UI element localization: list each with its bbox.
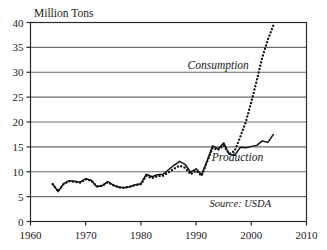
- y-tick-label-20: 20: [13, 116, 25, 128]
- y-tick-label-10: 10: [13, 166, 25, 178]
- source-note: Source: USDA: [209, 198, 271, 209]
- y-axis-title: Million Tons: [34, 7, 94, 19]
- y-tick-label-35: 35: [13, 41, 25, 53]
- line-chart: 0510152025303540 19601970198019902000201…: [0, 0, 327, 250]
- chart-page: 0510152025303540 19601970198019902000201…: [0, 0, 327, 250]
- consumption-label: Consumption: [188, 59, 250, 72]
- y-tick-label-30: 30: [13, 66, 25, 78]
- y-tick-label-15: 15: [13, 141, 25, 153]
- production-label: Production: [211, 151, 264, 163]
- y-tick-label-40: 40: [13, 17, 25, 29]
- x-tick-label-2000: 2000: [240, 229, 263, 241]
- x-tick-label-1970: 1970: [75, 229, 98, 241]
- x-tick-label-1960: 1960: [20, 229, 43, 241]
- y-tick-label-25: 25: [13, 91, 25, 103]
- x-tick-label-1980: 1980: [130, 229, 153, 241]
- x-tick-label-1990: 1990: [185, 229, 208, 241]
- x-tick-label-2010: 2010: [296, 229, 319, 241]
- y-tick-label-5: 5: [18, 191, 24, 203]
- y-tick-label-0: 0: [18, 216, 24, 228]
- chart-background: [0, 0, 327, 250]
